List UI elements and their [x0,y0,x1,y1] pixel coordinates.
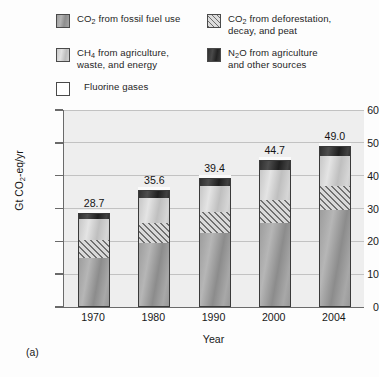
bar-segment-fluorine[interactable] [138,187,170,190]
bar-value-label-2004: 49.0 [300,130,370,142]
x-axis-label-2004: 2004 [299,311,369,323]
y-axis-tick [55,306,63,307]
bar-segment-fossil[interactable] [199,233,231,307]
bar-2000[interactable] [259,160,291,307]
panel-caption: (a) [26,347,39,358]
bar-segment-ch4[interactable] [319,156,351,186]
bar-value-label-2000: 44.7 [240,144,310,156]
plot-area: 28.735.639.444.749.0 [63,110,364,307]
bar-2004[interactable] [319,146,351,307]
bar-1980[interactable] [138,190,170,307]
bar-segment-n2o[interactable] [319,146,351,156]
bar-segment-n2o[interactable] [138,190,170,198]
y-axis-title: Gt CO2-eq/yr [14,116,25,246]
bar-segment-fluorine[interactable] [319,143,351,146]
bar-segment-ch4[interactable] [78,219,110,240]
bar-segment-fluorine[interactable] [259,157,291,160]
bar-1990[interactable] [199,178,231,307]
y-axis-tick [55,142,63,143]
y-axis-tick [55,109,63,110]
bar-value-label-1980: 35.6 [119,174,189,186]
bar-value-label-1970: 28.7 [59,197,129,209]
bar-segment-defor[interactable] [259,200,291,223]
y-axis-tick [55,175,63,176]
bar-segment-defor[interactable] [199,212,231,233]
chart-plot-wrapper: Gt CO2-eq/yr 0102030405060 28.735.639.44… [0,0,379,377]
bar-segment-fluorine[interactable] [78,210,110,213]
bar-segment-defor[interactable] [78,240,110,258]
bar-segment-ch4[interactable] [138,198,170,224]
bar-segment-fossil[interactable] [259,223,291,307]
x-axis-line [63,307,364,308]
bar-segment-defor[interactable] [319,186,351,210]
bar-1970[interactable] [78,213,110,307]
bar-segment-fossil[interactable] [78,258,110,307]
gridline [64,110,364,111]
bar-segment-n2o[interactable] [199,178,231,186]
bar-segment-fossil[interactable] [138,243,170,307]
bar-value-label-1990: 39.4 [180,162,250,174]
y-axis-tick [55,241,63,242]
x-axis-title: Year [63,333,364,345]
y-axis-tick [55,273,63,274]
bar-segment-ch4[interactable] [259,170,291,201]
figure-panel-a: CO2 from fossil fuel use CO2 from defore… [0,0,379,377]
bar-segment-fluorine[interactable] [199,175,231,178]
bar-segment-n2o[interactable] [259,160,291,170]
bar-segment-ch4[interactable] [199,186,231,213]
bar-segment-fossil[interactable] [319,210,351,307]
bar-segment-defor[interactable] [138,223,170,243]
bar-segment-n2o[interactable] [78,213,110,219]
